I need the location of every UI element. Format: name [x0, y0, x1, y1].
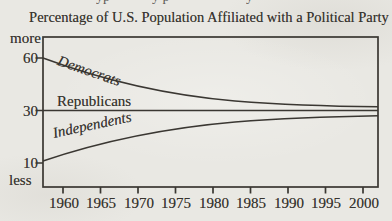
y-tick-marks [36, 58, 44, 163]
x-tick-label-2000: 2000 [349, 195, 379, 212]
plot-border [43, 37, 378, 187]
x-tick-marks [63, 187, 363, 194]
scanned-chart-page: yp y p y Percentage of U.S. Population A… [0, 0, 392, 221]
plot-area-svg [0, 0, 392, 221]
x-tick-label-1990: 1990 [274, 195, 304, 212]
x-tick-label-1975: 1975 [161, 195, 191, 212]
x-tick-label-1960: 1960 [49, 195, 79, 212]
x-tick-label-1985: 1985 [236, 195, 266, 212]
x-tick-label-1995: 1995 [311, 195, 341, 212]
x-tick-label-1980: 1980 [199, 195, 229, 212]
x-tick-label-1970: 1970 [124, 195, 154, 212]
republicans-series-label: Republicans [57, 93, 131, 110]
x-tick-label-1965: 1965 [86, 195, 116, 212]
